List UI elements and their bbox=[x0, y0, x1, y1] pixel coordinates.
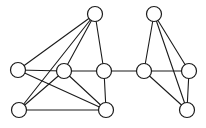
node-layer bbox=[11, 7, 197, 118]
graph-edge-n1-n2 bbox=[18, 14, 95, 70]
graph-node-n2 bbox=[11, 63, 26, 78]
graph-figure bbox=[0, 0, 206, 128]
graph-node-n10 bbox=[180, 103, 195, 118]
graph-edge-n1-n5 bbox=[19, 14, 95, 110]
graph-node-n7 bbox=[147, 7, 162, 22]
graph-edge-n7-n9 bbox=[154, 14, 189, 71]
graph-edge-n1-n4 bbox=[95, 14, 104, 71]
graph-edge-n7-n8 bbox=[144, 14, 154, 71]
graph-node-n3 bbox=[57, 64, 72, 79]
graph-node-n4 bbox=[97, 64, 112, 79]
graph-node-n6 bbox=[99, 103, 114, 118]
edge-layer bbox=[18, 14, 189, 110]
graph-edge-n1-n3 bbox=[64, 14, 95, 71]
graph-node-n8 bbox=[137, 64, 152, 79]
graph-node-n5 bbox=[12, 103, 27, 118]
graph-node-n9 bbox=[182, 64, 197, 79]
graph-edge-n5-n3 bbox=[19, 71, 64, 110]
graph-node-n1 bbox=[88, 7, 103, 22]
graph-canvas bbox=[0, 0, 206, 128]
